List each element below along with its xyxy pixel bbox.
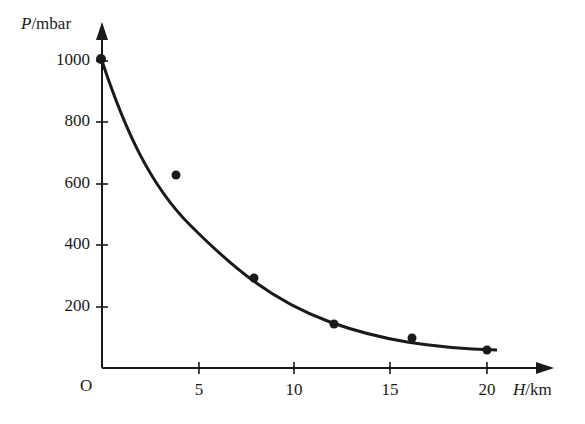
x-axis-var: H xyxy=(513,380,525,399)
data-points xyxy=(96,54,492,355)
x-tick-label: 15 xyxy=(370,380,410,400)
y-axis-unit: /mbar xyxy=(31,14,71,33)
data-point xyxy=(408,334,417,343)
data-point xyxy=(250,274,259,283)
origin-label: O xyxy=(80,376,92,396)
y-tick-label: 800 xyxy=(40,111,90,131)
x-tick-label: 5 xyxy=(179,380,219,400)
x-tick-label: 20 xyxy=(467,380,507,400)
y-tick-label: 200 xyxy=(40,296,90,316)
data-point xyxy=(330,320,339,329)
x-axis-label: H/km xyxy=(513,380,552,400)
x-axis-unit: /km xyxy=(525,380,551,399)
data-point xyxy=(96,54,106,64)
y-tick-label: 400 xyxy=(40,234,90,254)
x-axis-arrow-icon xyxy=(536,362,554,374)
fitted-curve xyxy=(102,61,497,350)
y-axis-arrow-icon xyxy=(96,22,108,40)
y-axis-var: P xyxy=(21,14,31,33)
data-point xyxy=(172,171,181,180)
y-tick-label: 1000 xyxy=(40,50,90,70)
y-tick-label: 600 xyxy=(40,173,90,193)
x-tick-label: 10 xyxy=(274,380,314,400)
y-axis-label: P/mbar xyxy=(21,14,71,34)
data-point xyxy=(483,346,492,355)
